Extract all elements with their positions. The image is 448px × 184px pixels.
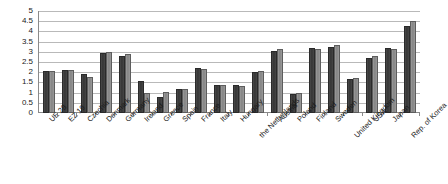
y-tick-label: 2 xyxy=(29,68,33,76)
bar xyxy=(239,86,245,113)
bar xyxy=(87,77,93,113)
bar-group xyxy=(268,11,287,113)
bar-group xyxy=(229,11,248,113)
x-label-slot: Ireland xyxy=(134,116,153,182)
x-label-slot: Greece xyxy=(153,116,172,182)
y-tick-label: 4 xyxy=(29,27,33,35)
bar-group xyxy=(96,11,115,113)
x-label-slot: Finland xyxy=(306,116,325,182)
y-tick-label: 5 xyxy=(29,7,33,15)
x-label-slot: UE 28 xyxy=(39,116,58,182)
bar-group xyxy=(401,11,420,113)
bar-group xyxy=(172,11,191,113)
bar xyxy=(68,70,74,113)
x-label-slot: Hungary xyxy=(230,116,249,182)
y-tick-label: 0.5 xyxy=(22,99,33,107)
x-label-slot: Japan xyxy=(382,116,401,182)
x-label-slot: United Kingdom xyxy=(344,116,363,182)
x-label-slot: Rep. of Korea xyxy=(401,116,420,182)
bar-group xyxy=(39,11,58,113)
x-axis-labels: UE 28EZ 19CzechiaDenmarkGermanyIrelandGr… xyxy=(39,116,420,182)
x-label-slot: Spain xyxy=(172,116,191,182)
y-tick-label: 3.5 xyxy=(22,38,33,46)
x-label-slot: EZ 19 xyxy=(58,116,77,182)
bar-group xyxy=(325,11,344,113)
x-label-slot: Poland xyxy=(287,116,306,182)
bar-group xyxy=(58,11,77,113)
y-tick-label: 1 xyxy=(29,89,33,97)
bar-group xyxy=(191,11,210,113)
bar xyxy=(410,21,416,113)
bar xyxy=(49,71,55,113)
bar xyxy=(201,69,207,113)
x-label-slot: Italy xyxy=(210,116,229,182)
bar xyxy=(372,56,378,113)
bar-group xyxy=(306,11,325,113)
x-label-slot: Czechia xyxy=(77,116,96,182)
bar-group xyxy=(344,11,363,113)
bar-group xyxy=(363,11,382,113)
x-label-slot: Sweden xyxy=(325,116,344,182)
y-axis: 00.511.522.533.544.55 xyxy=(0,0,36,124)
y-tick-label: 4.5 xyxy=(22,17,33,25)
bar-group xyxy=(153,11,172,113)
x-label-slot: Denmark xyxy=(96,116,115,182)
bar xyxy=(315,49,321,113)
x-label-slot: Austria xyxy=(268,116,287,182)
y-tick-label: 0 xyxy=(29,109,33,117)
bar-group xyxy=(210,11,229,113)
y-tick-label: 2.5 xyxy=(22,58,33,66)
x-label-slot: France xyxy=(191,116,210,182)
bar xyxy=(277,49,283,113)
x-label-slot: USA xyxy=(363,116,382,182)
x-label-slot: the Netherlands xyxy=(249,116,268,182)
bars-layer xyxy=(39,11,420,113)
x-label-slot: Germany xyxy=(115,116,134,182)
y-tick-label: 3 xyxy=(29,48,33,56)
bar-group xyxy=(77,11,96,113)
y-tick-label: 1.5 xyxy=(22,78,33,86)
